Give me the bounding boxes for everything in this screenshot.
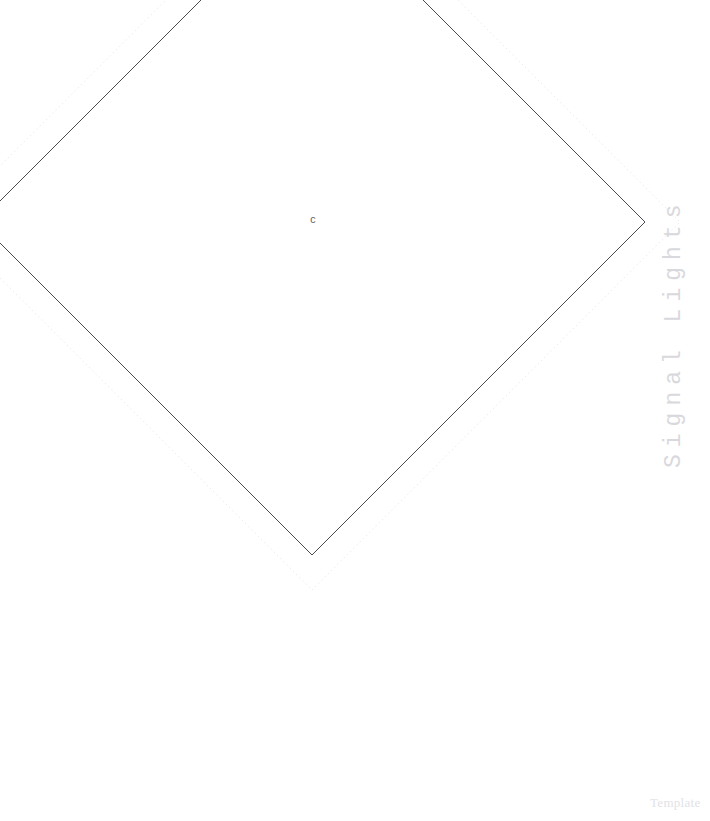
- footer-template-label: Template: [650, 795, 701, 811]
- diagram-drawing-area: [0, 0, 710, 821]
- center-dimension-label: c: [306, 214, 320, 228]
- side-title-caption: Signal Lights: [656, 100, 692, 468]
- diamond-guide-shape: [0, 0, 680, 590]
- template-canvas: c Signal Lights Template: [0, 0, 710, 821]
- diamond-outline-shape: [0, 0, 645, 555]
